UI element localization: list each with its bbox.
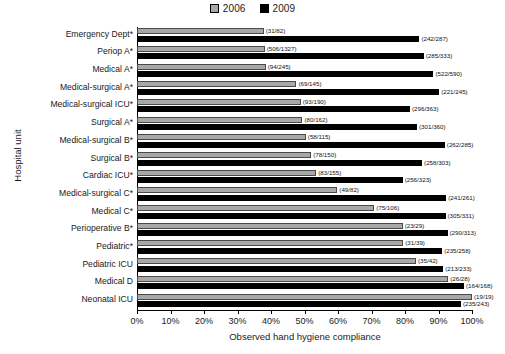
bar-value-label-2009: (221/245) [441, 89, 468, 95]
bar-2009 [137, 160, 422, 166]
y-axis-category-label: Neonatal ICU [81, 294, 133, 304]
plot-area: (31/82)(242/287)(506/1327)(285/333)(94/2… [137, 27, 472, 310]
y-axis-category-label: Pediatric* [96, 241, 133, 251]
y-axis-category-label: Medical-surgical ICU* [50, 99, 133, 109]
bar-value-label-2009: (301/360) [419, 124, 446, 130]
x-axis-tick [238, 310, 239, 314]
bar-2006 [137, 187, 337, 193]
bar-2009 [137, 195, 446, 201]
bar-2006 [137, 294, 472, 300]
y-axis-category-label: Emergency Dept* [66, 29, 133, 39]
bar-2009 [137, 124, 417, 130]
bar-value-label-2006: (78/150) [313, 152, 336, 158]
bar-2006 [137, 64, 266, 70]
bar-value-label-2009: (258/303) [424, 160, 451, 166]
x-axis-tick [137, 310, 138, 314]
legend-label-2009: 2009 [273, 3, 296, 14]
bar-2009 [137, 71, 433, 77]
bar-value-label-2006: (80/162) [304, 117, 327, 123]
y-axis-category-label: Surgical A* [91, 117, 133, 127]
bar-value-label-2009: (235/258) [444, 248, 471, 254]
bar-value-label-2006: (26/28) [450, 276, 470, 282]
bar-2009 [137, 230, 448, 236]
bar-2006 [137, 276, 448, 282]
y-axis-tick-labels: Emergency Dept*Periop A*Medical A*Medica… [0, 27, 137, 310]
bar-2006 [137, 134, 306, 140]
x-axis-title: Observed hand hygiene compliance [137, 331, 473, 342]
bar-2009 [137, 142, 445, 148]
y-axis-category-label: Pediatric ICU [82, 259, 133, 269]
x-axis-tick [405, 310, 406, 314]
bar-value-label-2006: (31/82) [266, 28, 286, 34]
legend-item-2006: 2006 [210, 3, 246, 14]
x-axis-tick [472, 310, 473, 314]
y-axis-category-label: Surgical B* [90, 153, 133, 163]
bar-value-label-2006: (58/115) [308, 134, 331, 140]
bar-value-label-2006: (83/155) [318, 170, 341, 176]
legend-item-2009: 2009 [260, 3, 296, 14]
bar-value-label-2009: (305/331) [448, 213, 475, 219]
bar-2009 [137, 248, 442, 254]
bar-2009 [137, 266, 443, 272]
legend-swatch-icon-2009 [260, 4, 269, 13]
bar-2006 [137, 46, 265, 52]
x-axis-tick [271, 310, 272, 314]
x-axis-tick [338, 310, 339, 314]
bar-value-label-2006: (506/1327) [267, 46, 297, 52]
bar-2006 [137, 99, 301, 105]
bar-2006 [137, 258, 416, 264]
y-axis-category-label: Medical D [95, 276, 133, 286]
bar-value-label-2009: (262/285) [447, 142, 474, 148]
bar-value-label-2006: (75/106) [376, 205, 399, 211]
y-axis-category-label: Medical-surgical B* [59, 135, 133, 145]
x-axis-tick [372, 310, 373, 314]
bar-value-label-2009: (290/313) [450, 230, 477, 236]
bar-value-label-2009: (522/590) [435, 71, 462, 77]
y-axis-category-label: Periop A* [97, 46, 133, 56]
x-axis-tick [171, 310, 172, 314]
bar-2006 [137, 81, 296, 87]
x-axis-tick-label: 100% [452, 316, 492, 326]
bar-value-label-2009: (235/243) [463, 301, 490, 307]
y-axis-category-label: Medical-surgical C* [59, 188, 133, 198]
bar-2009 [137, 283, 464, 289]
chart-legend: 2006 2009 [0, 3, 505, 14]
bar-2009 [137, 301, 461, 307]
bar-value-label-2009: (213/233) [445, 266, 472, 272]
y-axis-category-label: Cardiac ICU* [83, 170, 133, 180]
bar-2006 [137, 240, 403, 246]
x-axis-tick [305, 310, 306, 314]
bar-2006 [137, 223, 403, 229]
y-axis-category-label: Perioperative B* [71, 223, 133, 233]
bar-value-label-2006: (19/19) [474, 294, 494, 300]
bar-value-label-2009: (164/168) [466, 283, 493, 289]
bar-value-label-2006: (35/42) [418, 258, 438, 264]
bar-2006 [137, 28, 264, 34]
x-axis-tick [204, 310, 205, 314]
bar-value-label-2006: (49/82) [339, 187, 359, 193]
y-axis-category-label: Medical A* [92, 64, 133, 74]
legend-label-2006: 2006 [223, 3, 246, 14]
bar-2006 [137, 170, 316, 176]
bar-value-label-2009: (296/363) [412, 106, 439, 112]
bar-2009 [137, 89, 439, 95]
bar-2009 [137, 177, 403, 183]
x-axis-tick [439, 310, 440, 314]
bar-value-label-2006: (23/29) [405, 223, 425, 229]
chart-container: 2006 2009 Hospital unit Emergency Dept*P… [0, 0, 505, 354]
bar-value-label-2006: (69/145) [298, 81, 321, 87]
bar-2006 [137, 117, 302, 123]
bar-value-label-2009: (242/287) [421, 36, 448, 42]
bar-2009 [137, 53, 424, 59]
bar-value-label-2009: (256/323) [405, 177, 432, 183]
y-axis-category-label: Medical-surgical A* [60, 82, 133, 92]
bar-value-label-2006: (31/39) [405, 240, 425, 246]
y-axis-category-label: Medical C* [91, 206, 133, 216]
bar-2006 [137, 205, 374, 211]
bar-2006 [137, 152, 311, 158]
bar-2009 [137, 106, 410, 112]
bar-value-label-2009: (241/261) [448, 195, 475, 201]
bar-2009 [137, 36, 419, 42]
bar-value-label-2006: (93/190) [303, 99, 326, 105]
bar-2009 [137, 213, 446, 219]
